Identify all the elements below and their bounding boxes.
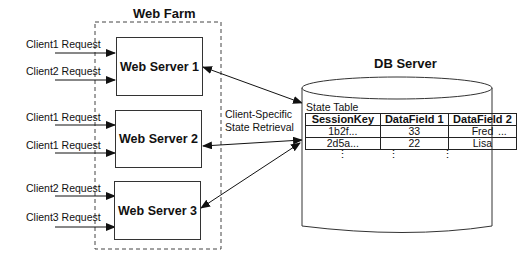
request-label: Client1 Request [26, 111, 101, 123]
connection-label-line2: State Retrieval [225, 121, 294, 133]
cell: Lisa [448, 138, 516, 150]
more-columns-indicator: ... [498, 125, 507, 137]
request-label: Client2 Request [26, 182, 101, 194]
more-rows-indicator: ⋮ [388, 148, 399, 160]
table-row: 1b2f... 33 Fred [306, 126, 517, 138]
state-table-title: State Table [306, 101, 358, 113]
request-label: Client2 Request [26, 65, 101, 77]
cell: 33 [380, 126, 448, 138]
request-label: Client1 Request [26, 139, 101, 151]
column-header: DataField 2 [448, 114, 516, 126]
db-server-title: DB Server [374, 56, 437, 71]
cell: 1b2f... [306, 126, 381, 138]
connection-label-line1: Client-Specific [225, 108, 292, 120]
state-table: SessionKey DataField 1 DataField 2 1b2f.… [305, 113, 517, 150]
request-label: Client3 Request [26, 211, 101, 223]
column-header: DataField 1 [380, 114, 448, 126]
web-server-1: Web Server 1 [116, 37, 203, 96]
column-header: SessionKey [306, 114, 381, 126]
web-server-3: Web Server 3 [114, 181, 201, 240]
more-rows-indicator: ⋮ [442, 148, 453, 160]
request-label: Client1 Request [26, 38, 101, 50]
web-farm-title: Web Farm [133, 6, 196, 21]
more-rows-indicator: ⋮ [337, 148, 348, 160]
web-server-2: Web Server 2 [115, 110, 202, 168]
